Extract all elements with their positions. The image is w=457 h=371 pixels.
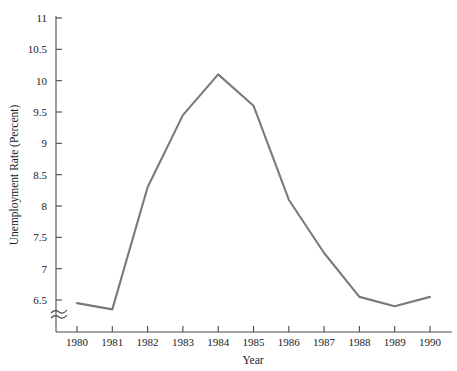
axis-break-stroke-upper [51,310,67,313]
x-tick-label: 1987 [313,336,336,348]
x-tick-label: 1988 [348,336,371,348]
y-tick-label: 6.5 [33,294,47,306]
x-tick-label: 1982 [137,336,159,348]
y-axis-title: Unemployment Rate (Percent) [8,105,21,246]
data-series-group [77,74,430,309]
y-tick-label: 7.5 [33,231,47,243]
y-axis-break-symbol [51,310,67,318]
chart-container: 6.577.588.599.51010.511 1980198119821983… [0,0,457,371]
x-axis-title: Year [242,354,263,366]
y-tick-label: 10 [36,75,48,87]
x-axis-ticks: 1980198119821983198419851986198719881989… [66,326,442,348]
y-tick-label: 10.5 [28,43,48,55]
axis-break-stroke-lower [51,315,67,318]
y-tick-label: 9.5 [33,106,47,118]
y-tick-label: 9 [42,137,48,149]
y-tick-label: 11 [36,12,47,24]
y-tick-label: 7 [42,263,48,275]
line-chart: 6.577.588.599.51010.511 1980198119821983… [0,0,457,371]
series-line-unemployment-rate [77,74,430,309]
y-axis-ticks: 6.577.588.599.51010.511 [28,12,62,306]
x-tick-label: 1985 [243,336,266,348]
x-tick-label: 1980 [66,336,89,348]
x-tick-label: 1984 [207,336,230,348]
x-tick-label: 1990 [419,336,442,348]
y-tick-label: 8.5 [33,169,47,181]
x-tick-label: 1989 [384,336,407,348]
y-tick-label: 8 [42,200,48,212]
x-tick-label: 1983 [172,336,195,348]
x-tick-label: 1986 [278,336,301,348]
x-tick-label: 1981 [101,336,123,348]
